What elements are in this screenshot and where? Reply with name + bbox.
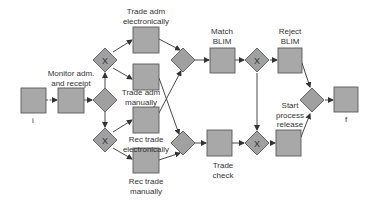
label-line: manually xyxy=(122,98,160,108)
label-line: Trade adm xyxy=(122,88,160,98)
label-reject-blim: Reject BLIM xyxy=(279,27,302,46)
label-monitor: Monitor adm. and receipt xyxy=(48,69,95,88)
task-trade-adm-electronically[interactable] xyxy=(133,27,159,53)
label-trade-adm-manually: Trade adm manually xyxy=(122,88,160,107)
edge-adman-joinbot xyxy=(159,78,179,134)
label-line: Rec trade xyxy=(129,177,164,187)
gateway-join-top[interactable] xyxy=(171,48,195,72)
label-line: and receipt xyxy=(48,79,95,89)
gateway-split[interactable] xyxy=(93,88,117,112)
edge-xrec-recelec xyxy=(113,120,132,132)
label-rec-trade-electronically: Rec trade electronically xyxy=(123,135,169,154)
edge-reject-final xyxy=(302,63,310,87)
label-rec-trade-manually: Rec trade manually xyxy=(129,177,164,196)
label-line: BLIM xyxy=(279,37,302,47)
task-start-process-release[interactable] xyxy=(276,130,301,156)
x-marker-icon: X xyxy=(102,136,108,146)
task-rec-trade-electronically[interactable] xyxy=(133,107,159,133)
label-line: Match xyxy=(211,27,233,37)
x-marker-icon: X xyxy=(102,56,108,66)
x-marker-icon: X xyxy=(254,139,260,149)
label-line: Rec trade xyxy=(123,135,169,145)
label-line: Monitor adm. xyxy=(48,69,95,79)
label-line: BLIM xyxy=(211,37,233,47)
label-f: f xyxy=(345,115,347,125)
task-monitor-adm-receipt[interactable] xyxy=(58,88,84,113)
label-line: electronically xyxy=(123,17,169,27)
task-trade-check[interactable] xyxy=(207,130,232,156)
edge-admelec-jointop xyxy=(159,39,180,50)
label-match-blim: Match BLIM xyxy=(211,27,233,46)
x-marker-icon: X xyxy=(254,56,260,66)
label-start-process-release: Start process release xyxy=(276,101,304,130)
task-reject-blim[interactable] xyxy=(278,48,302,73)
task-trade-adm-manually[interactable] xyxy=(133,64,159,90)
label-i: i xyxy=(32,116,34,126)
edge-recman-joinbot xyxy=(159,153,180,160)
label-line: Reject xyxy=(279,27,302,37)
label-line: Start xyxy=(276,101,304,111)
label-line: check xyxy=(213,171,234,181)
label-line: Trade adm xyxy=(123,7,169,17)
label-line: electronically xyxy=(123,145,169,155)
task-match-blim[interactable] xyxy=(210,48,235,73)
edge-xadm-admelec xyxy=(113,40,132,52)
label-line: Trade xyxy=(213,161,234,171)
process-diagram: X X X X xyxy=(0,0,379,206)
gateway-join-bottom[interactable] xyxy=(171,131,195,155)
label-line: manually xyxy=(129,187,164,197)
label-trade-adm-electronically: Trade adm electronically xyxy=(123,7,169,26)
label-line: release xyxy=(276,120,304,130)
edge-xadm-adman xyxy=(113,68,132,79)
label-line: process xyxy=(276,111,304,121)
task-i[interactable] xyxy=(21,88,46,113)
label-trade-check: Trade check xyxy=(213,161,234,180)
task-f[interactable] xyxy=(334,87,358,112)
